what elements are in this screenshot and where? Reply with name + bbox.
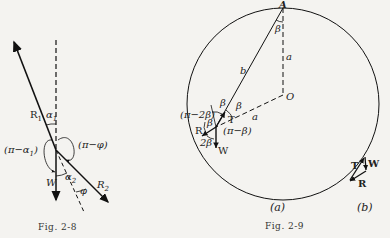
label-beta-3: β	[207, 118, 213, 128]
label-A: A	[279, 0, 287, 10]
label-r1: R1	[30, 110, 42, 123]
label-alpha2: α2	[65, 172, 76, 185]
label-two-beta: 2β	[200, 138, 212, 148]
label-r2: R2	[97, 180, 109, 193]
label-beta-2: β	[236, 101, 242, 111]
label-beta-top: β	[275, 24, 281, 34]
fig-2-9a-drawing	[187, 8, 379, 200]
label-triangle-R: R	[358, 179, 366, 189]
fig-2-8-drawing	[14, 40, 108, 212]
label-W: W	[218, 146, 228, 156]
label-a-vertical: a	[286, 52, 292, 62]
label-alpha1: α1	[46, 110, 57, 123]
label-w: W	[46, 178, 56, 188]
caption-fig-2-9: Fig. 2-9	[265, 221, 304, 231]
label-b: b	[240, 66, 246, 76]
figure-page: R1 α1 (π−α1) (π−φ) W α2 φ R2 Fig. 2-8 A …	[0, 0, 390, 238]
label-R: R	[195, 126, 203, 136]
label-pi-minus-beta: (π−β)	[223, 126, 252, 136]
label-triangle-T: T	[351, 161, 358, 171]
label-pi-minus-phi: (π−φ)	[78, 140, 108, 150]
label-beta-1: β	[220, 98, 226, 108]
label-sub-a: (a)	[270, 202, 285, 213]
label-a-horizontal: a	[252, 112, 258, 122]
label-O: O	[286, 92, 294, 102]
label-sub-b: (b)	[357, 202, 373, 213]
label-triangle-W: W	[368, 159, 379, 169]
label-pi-minus-alpha1: (π−α1)	[4, 145, 38, 158]
label-T: T	[228, 115, 235, 125]
label-phi: φ	[80, 186, 87, 196]
caption-fig-2-8: Fig. 2-8	[38, 222, 77, 232]
